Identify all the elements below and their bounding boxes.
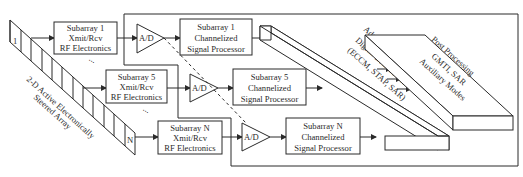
array-element-last: N <box>127 135 134 145</box>
svg-text:A/D: A/D <box>192 83 207 93</box>
svg-text:Subarray 5: Subarray 5 <box>118 72 155 82</box>
processor-block-n: Subarray N Channelized Signal Processor <box>286 118 360 154</box>
ad-converter-5: A/D <box>190 74 218 102</box>
radar-architecture-diagram: 1 N 2-D Active Electronically Steered Ar… <box>0 0 523 177</box>
svg-text:Signal Processor: Signal Processor <box>241 94 299 104</box>
rf-block-1: Subarray 1 Xmit/Rcv RF Electronics <box>54 22 117 54</box>
rf-block-n: Subarray N Xmit/Rcv RF Electronics <box>158 121 222 154</box>
svg-text:RF Electronics: RF Electronics <box>60 43 112 53</box>
ellipsis-upper: ... <box>88 53 99 65</box>
svg-text:A/D: A/D <box>139 33 154 43</box>
svg-text:Signal Processor: Signal Processor <box>294 143 352 153</box>
rf-block-5: Subarray 5 Xmit/Rcv RF Electronics <box>106 70 167 103</box>
ellipsis-lower: ... <box>142 103 153 115</box>
array-element-first: 1 <box>13 36 17 46</box>
svg-text:RF Electronics: RF Electronics <box>164 143 216 153</box>
svg-text:Subarray 1: Subarray 1 <box>197 22 234 32</box>
svg-text:Channelized: Channelized <box>302 132 346 142</box>
svg-text:Xmit/Rcv: Xmit/Rcv <box>120 82 155 92</box>
svg-text:Signal Processor: Signal Processor <box>187 44 245 54</box>
svg-text:Subarray 5: Subarray 5 <box>251 72 288 82</box>
svg-text:A/D: A/D <box>244 132 259 142</box>
svg-text:Xmit/Rcv: Xmit/Rcv <box>69 33 104 43</box>
processor-block-1: Subarray 1 Channelized Signal Processor <box>180 19 252 55</box>
svg-text:RF Electronics: RF Electronics <box>111 92 163 102</box>
processor-block-5: Subarray 5 Channelized Signal Processor <box>233 69 306 105</box>
ad-converter-n: A/D <box>242 123 270 151</box>
ad-converter-1: A/D <box>137 24 164 53</box>
svg-text:Subarray N: Subarray N <box>170 123 210 133</box>
svg-text:Subarray N: Subarray N <box>303 121 343 131</box>
svg-text:Subarray 1: Subarray 1 <box>67 23 104 33</box>
svg-text:Channelized: Channelized <box>195 33 239 43</box>
svg-text:Channelized: Channelized <box>248 83 292 93</box>
svg-text:Xmit/Rcv: Xmit/Rcv <box>173 133 208 143</box>
